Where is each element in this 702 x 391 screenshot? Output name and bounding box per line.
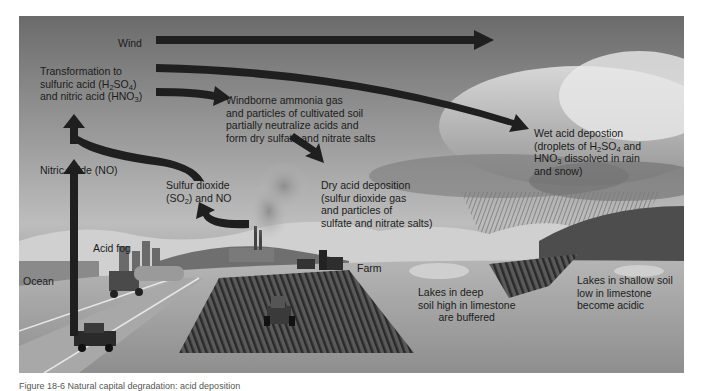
figure-caption: Figure 18-6 Natural capital degradation:… [19,381,240,391]
label-ocean: Ocean [23,275,54,288]
label-wet-deposition: Wet acid depostion (droplets of H2SO4 an… [534,127,641,177]
windborne-arrow [156,86,231,106]
label-farm: Farm [357,262,382,275]
label-lakes-shallow: Lakes in shallow soil low in limestone b… [577,274,673,312]
acid-deposition-figure: Wind Transformation to sulfuric acid (H2… [19,16,684,373]
label-lakes-deep: Lakes in deep soil high in limestone are… [418,286,515,324]
label-dry-deposition: Dry acid deposition (sulfur dioxide gas … [321,179,432,229]
label-windborne-ammonia: Windborne ammonia gas and particles of c… [226,94,375,144]
sulfur-dioxide-arrow [196,202,249,228]
label-transformation: Transformation to sulfuric acid (H2SO4) … [40,65,142,103]
label-nitric-oxide: Nitric oxide (NO) [40,164,118,177]
label-acid-fog: Acid fog [93,242,131,255]
label-wind: Wind [118,37,142,50]
label-sulfur-dioxide: Sulfur dioxide (SO2) and NO [166,179,231,204]
wind-arrow [156,30,494,50]
lake-buffered [409,263,469,279]
